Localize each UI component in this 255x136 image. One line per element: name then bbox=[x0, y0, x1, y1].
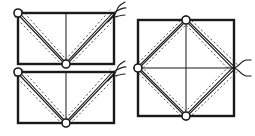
rectangle-v-routing-bottom bbox=[14, 61, 126, 128]
ring-bottom-center-ring bbox=[62, 60, 70, 68]
ring-bottom-mid-ring bbox=[182, 112, 190, 120]
figure-canvas bbox=[0, 0, 255, 136]
ring-left-mid-ring bbox=[134, 64, 142, 72]
ring-bottom-center-ring bbox=[62, 119, 70, 127]
ring-top-left-ring bbox=[14, 68, 22, 76]
fork-curl-upper bbox=[233, 60, 251, 68]
ring-top-mid-ring bbox=[182, 16, 190, 24]
square-diamond-routing bbox=[133, 15, 251, 121]
ring-top-left-ring bbox=[14, 9, 22, 17]
line-diagram-svg bbox=[0, 0, 255, 136]
fork-curl-lower bbox=[233, 68, 251, 76]
fork-right-mid bbox=[233, 60, 251, 76]
rectangle-v-routing-top bbox=[14, 2, 126, 69]
